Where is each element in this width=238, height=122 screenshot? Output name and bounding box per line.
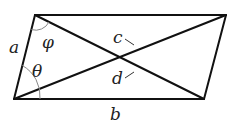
parallelogram-diagram: a b c d φ θ (0, 0, 238, 122)
side-left (14, 15, 35, 99)
angle-arc-phi (31, 22, 49, 30)
label-angle-phi: φ (42, 32, 54, 52)
label-diagonal-d: d (112, 68, 123, 88)
diagonal-d-pointer (125, 72, 134, 78)
diagonal-c-pointer (125, 39, 134, 45)
label-side-b: b (110, 104, 121, 122)
label-diagonal-c: c (113, 27, 123, 47)
side-right (204, 15, 226, 99)
label-side-a: a (9, 37, 19, 57)
label-angle-theta: θ (32, 61, 42, 81)
